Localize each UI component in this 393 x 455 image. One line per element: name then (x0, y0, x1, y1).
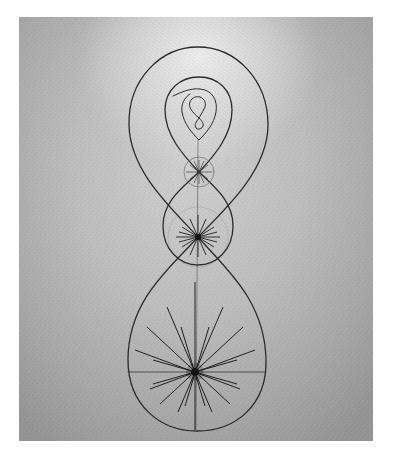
figure-eight-drawing (19, 17, 373, 441)
drawing-photograph (19, 17, 373, 441)
vertical-axis (196, 140, 198, 431)
star-burst-large (135, 282, 255, 430)
inner-curve (189, 97, 205, 129)
